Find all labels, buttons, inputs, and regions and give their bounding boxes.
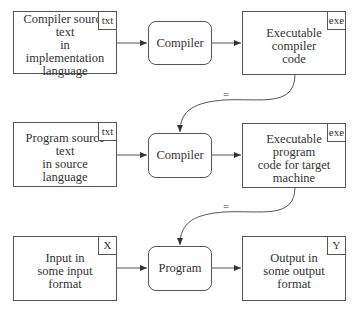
program-process-box: Program — [148, 246, 212, 291]
program-source-box: Program source text in source language t… — [13, 122, 117, 187]
executable-program-box: Executable program code for target machi… — [242, 123, 346, 188]
executable-compiler-box: Executable compiler code exe — [242, 11, 346, 75]
exe-tag: exe — [327, 11, 346, 30]
output-box: Output in some output format Y — [242, 236, 346, 301]
y-tag: Y — [327, 236, 346, 255]
compiler-process-label: Compiler — [150, 149, 209, 162]
x-tag: X — [98, 236, 117, 255]
compiler-process-box: Compiler — [148, 133, 212, 178]
compiler-source-box: Compiler source text in implementation l… — [13, 11, 117, 74]
equals-label: = — [223, 200, 229, 212]
program-process-label: Program — [152, 262, 207, 275]
exe-tag: exe — [327, 123, 346, 142]
txt-tag: txt — [98, 11, 117, 30]
input-box: Input in some input format X — [13, 236, 117, 301]
txt-tag: txt — [98, 122, 117, 141]
compiler-process-box: Compiler — [148, 21, 212, 65]
compiler-process-label: Compiler — [150, 37, 209, 50]
equals-label: = — [223, 88, 229, 100]
